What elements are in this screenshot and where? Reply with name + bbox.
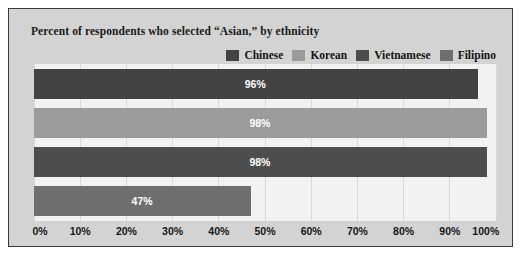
legend-item-label: Korean <box>310 49 347 61</box>
legend-item-label: Chinese <box>244 49 283 61</box>
x-axis-tick-labels: 0%10%20%30%40%50%60%70%80%90%100% <box>34 225 496 241</box>
legend-item-korean[interactable]: Korean <box>292 49 347 61</box>
x-tick-label: 80% <box>393 225 414 237</box>
x-tick-label: 20% <box>116 225 137 237</box>
bar-row: 96% <box>34 69 496 99</box>
legend-swatch-icon <box>356 50 369 61</box>
bar-value-label: 96% <box>245 78 266 90</box>
x-tick-label: 100% <box>472 225 499 237</box>
x-tick-label: 50% <box>254 225 275 237</box>
legend-item-vietnamese[interactable]: Vietnamese <box>356 49 430 61</box>
bar-value-label: 98% <box>249 156 270 168</box>
bar-row: 47% <box>34 186 496 216</box>
plot-area: 96%98%98%47% <box>34 64 496 221</box>
bar-value-label: 98% <box>249 117 270 129</box>
bar-series: 96%98%98%47% <box>34 64 496 221</box>
chart-frame: Percent of respondents who selected “Asi… <box>8 8 513 247</box>
legend-item-label: Filipino <box>458 49 496 61</box>
legend-item-label: Vietnamese <box>374 49 430 61</box>
x-tick-label: 0% <box>32 225 47 237</box>
x-tick-label: 30% <box>162 225 183 237</box>
x-tick-label: 90% <box>439 225 460 237</box>
legend-swatch-icon <box>226 50 239 61</box>
chart-legend: ChineseKoreanVietnameseFilipino <box>226 48 496 62</box>
bar-row: 98% <box>34 147 496 177</box>
x-tick-label: 10% <box>70 225 91 237</box>
bar-value-label: 47% <box>132 195 153 207</box>
x-tick-label: 40% <box>208 225 229 237</box>
legend-item-chinese[interactable]: Chinese <box>226 49 283 61</box>
x-tick-label: 60% <box>301 225 322 237</box>
legend-swatch-icon <box>440 50 453 61</box>
bar-row: 98% <box>34 108 496 138</box>
legend-swatch-icon <box>292 50 305 61</box>
chart-title: Percent of respondents who selected “Asi… <box>31 25 319 37</box>
legend-item-filipino[interactable]: Filipino <box>440 49 496 61</box>
x-tick-label: 70% <box>347 225 368 237</box>
